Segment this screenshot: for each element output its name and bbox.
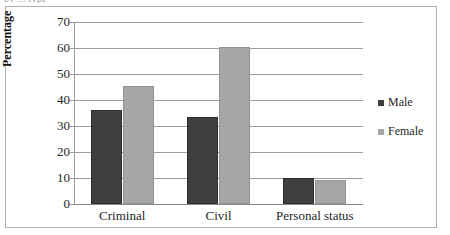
figure-frame: Percentage 706050403020100 CriminalCivil… [5,6,437,228]
bar-male[interactable] [91,110,122,204]
bar-female[interactable] [123,86,154,204]
chart-screenshot: by ... type Percentage 706050403020100 C… [0,0,450,235]
bar-male[interactable] [187,117,218,204]
bar-female[interactable] [219,47,250,204]
y-axis-tick-label: 10 [46,170,70,186]
y-axis-tick-label: 20 [46,144,70,160]
bar-female[interactable] [315,180,346,204]
legend-item-male[interactable]: Male [378,95,438,110]
clipped-caption-text: by ... type [4,0,204,3]
y-axis-tick-label: 60 [46,40,70,56]
x-axis-category-label: Criminal [74,208,170,224]
bar-group [267,22,363,204]
plot-area: CriminalCivilPersonal status [74,22,363,204]
bar-group [74,22,170,204]
gridline [74,204,363,205]
y-axis-tick-label: 40 [46,92,70,108]
legend-item-female[interactable]: Female [378,124,438,139]
bar-group [170,22,266,204]
chart-legend: MaleFemale [378,95,438,153]
x-axis-category-label: Personal status [267,208,363,224]
y-axis-tick-label: 70 [46,14,70,30]
y-axis-tick-labels: 706050403020100 [42,22,70,204]
x-axis-category-label: Civil [170,208,266,224]
y-axis-tick-label: 50 [46,66,70,82]
bar-chart: Percentage 706050403020100 CriminalCivil… [6,7,438,229]
legend-item-label: Female [388,124,423,139]
legend-item-label: Male [388,95,413,110]
square-marker [378,129,384,135]
bar-male[interactable] [283,178,314,204]
y-axis-tick-label: 0 [46,196,70,212]
square-marker [378,100,384,106]
y-axis-tick-label: 30 [46,118,70,134]
y-axis-title: Percentage [0,11,15,67]
